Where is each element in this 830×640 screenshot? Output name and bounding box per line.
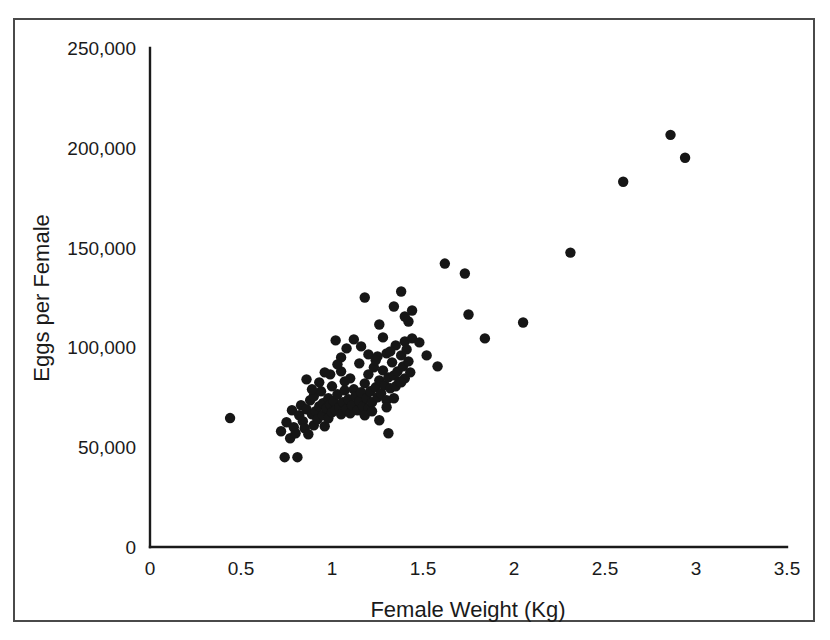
scatter-point (279, 452, 289, 462)
scatter-point (367, 406, 377, 416)
scatter-point (381, 402, 391, 412)
scatter-point (432, 361, 442, 371)
x-tick-label: 3 (691, 558, 702, 579)
scatter-point (292, 452, 302, 462)
scatter-point (356, 341, 366, 351)
scatter-point (320, 367, 330, 377)
scatter-point (400, 311, 410, 321)
scatter-point (303, 429, 313, 439)
scatter-point (330, 335, 340, 345)
scatter-point (225, 413, 235, 423)
scatter-point (387, 357, 397, 367)
scatter-point (396, 286, 406, 296)
scatter-point (421, 350, 431, 360)
y-tick-labels: 050,000100,000150,000200,000250,000 (67, 38, 136, 558)
x-axis-title: Female Weight (Kg) (370, 597, 565, 622)
chart-canvas: 050,000100,000150,000200,000250,000 00.5… (15, 20, 817, 624)
y-tick-label: 50,000 (78, 437, 136, 458)
scatter-point (290, 428, 300, 438)
scatter-point (389, 393, 399, 403)
scatter-point (340, 376, 350, 386)
scatter-point (385, 346, 395, 356)
scatter-point (440, 258, 450, 268)
scatter-point (565, 247, 575, 257)
scatter-point (374, 415, 384, 425)
x-tick-label: 2.5 (592, 558, 618, 579)
x-tick-label: 3.5 (774, 558, 800, 579)
scatter-point (383, 428, 393, 438)
scatter-point (403, 356, 413, 366)
scatter-point (341, 343, 351, 353)
y-axis-title: Eggs per Female (29, 214, 54, 382)
scatter-point (340, 385, 350, 395)
scatter-plot: 050,000100,000150,000200,000250,000 00.5… (15, 20, 817, 624)
x-tick-label: 2 (509, 558, 520, 579)
scatter-point (463, 309, 473, 319)
data-points (225, 130, 690, 463)
scatter-point (307, 384, 317, 394)
x-tick-labels: 00.511.522.533.5 (145, 558, 801, 579)
x-tick-label: 1 (327, 558, 338, 579)
scatter-point (518, 317, 528, 327)
y-tick-label: 100,000 (67, 337, 136, 358)
x-tick-label: 0 (145, 558, 156, 579)
x-tick-label: 0.5 (228, 558, 254, 579)
scatter-point (374, 319, 384, 329)
scatter-point (276, 426, 286, 436)
y-tick-label: 150,000 (67, 238, 136, 259)
scatter-point (405, 367, 415, 377)
scatter-point (396, 377, 406, 387)
y-tick-label: 200,000 (67, 138, 136, 159)
scatter-point (618, 177, 628, 187)
scatter-point (680, 153, 690, 163)
scatter-point (401, 344, 411, 354)
scatter-point (332, 359, 342, 369)
axis-lines (150, 48, 787, 547)
scatter-point (460, 268, 470, 278)
x-tick-label: 1.5 (410, 558, 436, 579)
y-tick-label: 0 (125, 537, 136, 558)
y-tick-label: 250,000 (67, 38, 136, 59)
scatter-point (414, 337, 424, 347)
scatter-point (665, 130, 675, 140)
figure-border: 050,000100,000150,000200,000250,000 00.5… (13, 18, 815, 622)
scatter-point (301, 374, 311, 384)
scatter-point (480, 333, 490, 343)
scatter-point (354, 358, 364, 368)
scatter-point (360, 292, 370, 302)
scatter-point (378, 332, 388, 342)
scatter-point (389, 301, 399, 311)
scatter-point (370, 355, 380, 365)
